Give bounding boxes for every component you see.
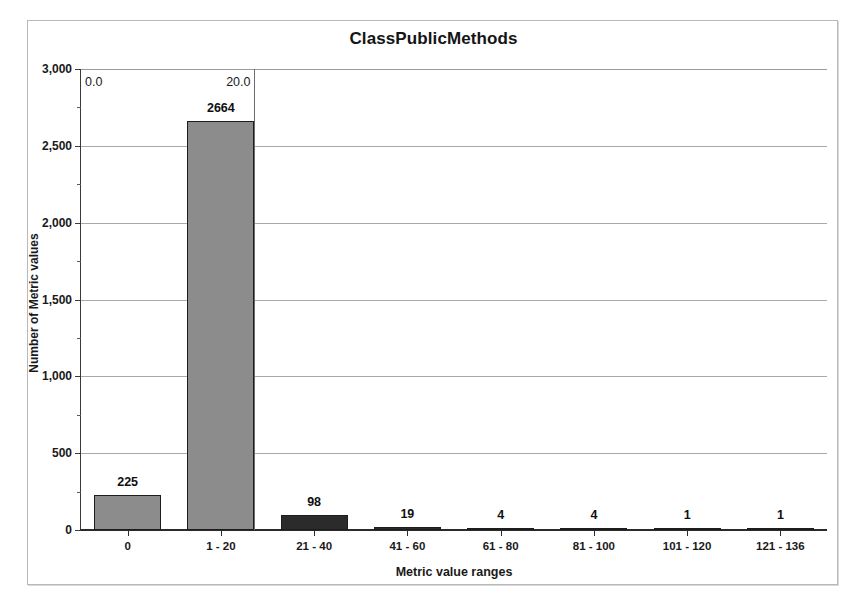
y-tick-label: 2,500	[42, 139, 72, 153]
x-axis-title: Metric value ranges	[81, 565, 827, 579]
y-tick-minor	[77, 107, 81, 108]
y-tick-mark	[75, 300, 81, 301]
y-tick-mark	[75, 146, 81, 147]
chart-frame: ClassPublicMethods Number of Metric valu…	[27, 20, 838, 585]
bar[interactable]	[467, 528, 534, 530]
x-tick-label: 21 - 40	[296, 540, 332, 552]
bar[interactable]	[560, 528, 627, 530]
bar-value-label: 4	[590, 508, 597, 522]
bar[interactable]	[374, 527, 441, 530]
x-tick-mark	[594, 530, 595, 536]
bar-value-label: 1	[684, 508, 691, 522]
bar[interactable]	[187, 121, 254, 530]
x-tick-label: 121 - 136	[756, 540, 805, 552]
x-tick-mark	[128, 530, 129, 536]
bar[interactable]	[747, 528, 814, 530]
range-marker-label: 0.0	[85, 75, 102, 89]
y-tick-label: 1,000	[42, 369, 72, 383]
x-tick-label: 101 - 120	[663, 540, 712, 552]
plot-area: 05001,0001,5002,0002,5003,000 01 - 2021 …	[81, 69, 827, 530]
bar-value-label: 98	[307, 495, 321, 509]
y-tick-label: 1,500	[42, 293, 72, 307]
y-tick-mark	[75, 376, 81, 377]
gridline	[81, 69, 827, 70]
range-marker-line	[254, 69, 255, 530]
y-tick-label: 0	[65, 523, 72, 537]
x-tick-label: 41 - 60	[389, 540, 425, 552]
y-tick-minor	[77, 261, 81, 262]
y-tick-minor	[77, 184, 81, 185]
x-tick-mark	[407, 530, 408, 536]
x-tick-mark	[780, 530, 781, 536]
x-tick-mark	[314, 530, 315, 536]
bar-value-label: 1	[777, 508, 784, 522]
y-tick-minor	[77, 415, 81, 416]
x-tick-label: 61 - 80	[483, 540, 519, 552]
y-tick-mark	[75, 223, 81, 224]
bar[interactable]	[94, 495, 161, 530]
x-tick-label: 0	[124, 540, 130, 552]
bar-value-label: 225	[117, 475, 138, 489]
bar-value-label: 2664	[207, 101, 235, 115]
x-tick-label: 1 - 20	[206, 540, 235, 552]
y-tick-label: 2,000	[42, 216, 72, 230]
y-tick-mark	[75, 453, 81, 454]
y-tick-minor	[77, 492, 81, 493]
bar-value-label: 4	[497, 508, 504, 522]
y-tick-label: 500	[52, 446, 72, 460]
range-marker-label: 20.0	[226, 75, 250, 89]
bar-value-label: 19	[400, 507, 414, 521]
x-tick-mark	[501, 530, 502, 536]
y-axis-title: Number of Metric values	[27, 233, 41, 372]
chart-title: ClassPublicMethods	[28, 29, 839, 49]
x-tick-label: 81 - 100	[573, 540, 615, 552]
bar[interactable]	[281, 515, 348, 530]
y-tick-mark	[75, 69, 81, 70]
y-tick-minor	[77, 338, 81, 339]
y-tick-mark	[75, 530, 81, 531]
bar[interactable]	[654, 528, 721, 530]
y-tick-label: 3,000	[42, 62, 72, 76]
x-tick-mark	[687, 530, 688, 536]
x-tick-mark	[221, 530, 222, 536]
